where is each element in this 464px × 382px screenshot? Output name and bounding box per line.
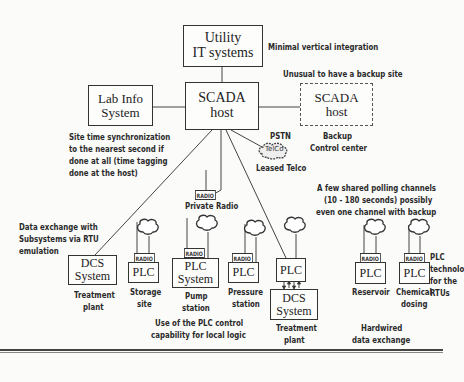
telco-label: TelCo [265,145,284,153]
annotation-data-exchange-2: Subsystems via RTU [19,234,99,246]
annotation-plc-logic-1: Use of the PLC control [155,318,243,330]
plc-treatment-label: PLC [280,264,302,277]
plc-reservoir-label: PLC [359,267,381,280]
dcs-system-right-box: DCS System [270,289,318,320]
scada-host-line1: SCADA [198,91,245,106]
plc-chemical-box: PLC [399,262,430,284]
label-chemical-2: dosing [401,299,427,311]
plc-system-pump-box: PLC System [172,258,219,288]
backup-scada-host-box: SCADA host [300,83,373,126]
annotation-private-radio: Private Radio [185,201,238,213]
utility-it-line1: Utility [205,31,242,46]
dcs-left-line2: System [75,270,110,283]
annotation-plc-tech-2: technolo [430,264,464,276]
plc-storage-box: PLC [128,262,159,283]
annotation-hardwired-1: Hardwired [361,323,402,335]
label-storage-1: Storage [130,287,161,299]
lab-info-line2: System [101,106,139,120]
label-storage-2: site [137,299,152,311]
scada-host-box: SCADA host [185,82,259,130]
annotation-polling-3: even one channel with backup [316,207,436,219]
annotation-pstn: PSTN [270,131,291,143]
backup-scada-line1: SCADA [314,91,358,105]
annotation-hardwired-2: data exchange [352,335,410,347]
annotation-minimal-integration: Minimal vertical integration [268,42,378,54]
annotation-plc-logic-2: capability for local logic [151,330,246,342]
annotation-data-exchange-3: emulation [19,246,59,258]
annotation-time-sync-1: Site time synchronization [69,132,170,144]
dcs-system-left-box: DCS System [68,255,117,285]
label-treatment-right-1: Treatment [276,323,317,335]
label-chemical-1: Chemical [396,287,432,299]
utility-it-line2: IT systems [193,46,254,61]
utility-it-systems-box: Utility IT systems [183,25,263,67]
annotation-data-exchange-1: Data exchange with [19,222,98,234]
label-pump-1: Pump [185,291,207,303]
lab-info-system-box: Lab Info System [88,85,153,126]
annotation-backup-cc-1: Backup [323,131,352,143]
label-treatment-right-2: plant [284,335,305,347]
plc-treatment-box: PLC [276,258,306,282]
annotation-plc-tech-3: for the [430,276,457,288]
private-radio-tag: RADIO [195,190,215,200]
label-treatment-left-2: plant [83,302,104,314]
label-treatment-left-1: Treatment [74,290,115,302]
annotation-time-sync-4: done at the host) [69,168,138,180]
annotation-polling-2: (10 - 180 seconds) possibly [324,195,432,207]
scada-host-line2: host [210,106,233,121]
annotation-time-sync-3: done at all (time tagging [69,156,168,168]
annotation-leased-telco: Leased Telco [256,163,306,175]
annotation-time-sync-2: to the nearest second if [69,144,164,156]
label-pressure-2: station [232,299,260,311]
plc-pressure-label: PLC [232,266,254,279]
plc-reservoir-box: PLC [355,262,386,284]
annotation-polling-1: A few shared polling channels [317,183,436,195]
plc-chemical-label: PLC [403,267,425,280]
annotation-backup-cc-2: Control center [310,143,367,155]
dcs-right-line1: DCS [282,292,305,305]
bottom-rule [0,349,443,351]
bottom-rule-shadow [0,352,443,353]
annotation-plc-tech-1: PLC [430,252,445,264]
lab-info-line1: Lab Info [98,92,143,106]
dcs-right-line2: System [276,305,311,318]
backup-scada-line2: host [326,105,348,119]
label-reservoir: Reservoir [352,287,390,299]
plc-storage-label: PLC [132,266,154,279]
annotation-unusual-backup: Unusual to have a backup site [283,69,403,81]
label-pump-2: station [182,303,210,315]
label-pressure-1: Pressure [228,287,263,299]
radio-tag-pump: RADIO [184,248,204,258]
plc-pressure-box: PLC [228,262,259,283]
annotation-plc-tech-4: RTUs [430,288,450,300]
plc-pump-line2: System [178,273,213,286]
